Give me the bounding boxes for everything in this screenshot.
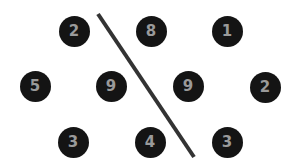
number-label: 1 — [222, 24, 232, 39]
number-circle: 8 — [136, 16, 167, 47]
number-label: 3 — [68, 135, 78, 150]
number-circle: 9 — [96, 71, 127, 102]
number-circle: 4 — [135, 127, 166, 158]
number-label: 4 — [145, 135, 155, 150]
number-circle: 5 — [20, 71, 51, 102]
number-label: 2 — [69, 24, 79, 39]
number-circle: 2 — [250, 72, 281, 103]
diagram-canvas: 2 8 1 5 9 9 2 3 4 3 — [0, 0, 297, 168]
number-circle: 3 — [58, 127, 89, 158]
number-circle: 2 — [59, 16, 90, 47]
number-label: 2 — [260, 80, 270, 95]
number-label: 9 — [183, 79, 193, 94]
number-label: 3 — [222, 135, 232, 150]
number-circle: 9 — [173, 71, 204, 102]
number-label: 9 — [106, 79, 116, 94]
number-label: 8 — [146, 24, 156, 39]
number-label: 5 — [30, 79, 40, 94]
number-circle: 3 — [212, 127, 243, 158]
number-circle: 1 — [212, 16, 243, 47]
